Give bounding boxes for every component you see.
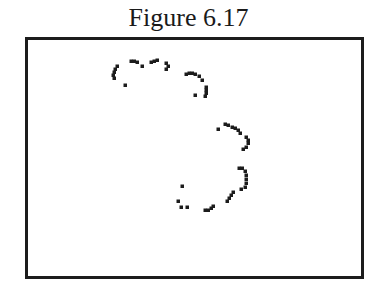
data-point	[212, 205, 216, 209]
data-point	[205, 89, 209, 93]
data-point	[226, 200, 230, 204]
data-point	[217, 128, 221, 132]
data-point	[245, 136, 249, 140]
data-point	[245, 174, 249, 178]
data-point	[116, 65, 120, 69]
data-point	[205, 86, 209, 90]
data-point	[238, 167, 242, 171]
data-point	[228, 197, 232, 201]
data-point	[180, 206, 184, 210]
data-point	[204, 209, 208, 213]
data-point	[153, 60, 157, 64]
data-point	[150, 61, 154, 65]
data-point	[130, 60, 134, 64]
data-point	[194, 73, 198, 77]
data-point	[230, 194, 234, 198]
data-point	[239, 132, 243, 136]
data-point	[205, 92, 209, 96]
data-point	[234, 127, 238, 131]
data-point	[114, 68, 118, 72]
data-point	[241, 167, 245, 171]
data-point	[156, 59, 160, 63]
data-point	[191, 72, 195, 76]
data-point	[247, 139, 251, 143]
data-point	[112, 74, 116, 78]
data-point	[204, 95, 208, 99]
data-point	[242, 148, 246, 152]
data-point	[194, 94, 198, 98]
data-point	[224, 123, 228, 127]
data-point	[245, 146, 249, 150]
dot-pattern-plot	[0, 0, 377, 291]
data-point	[244, 170, 248, 174]
data-point	[227, 124, 231, 128]
data-point	[165, 62, 169, 66]
data-point	[167, 65, 171, 69]
data-point	[181, 185, 185, 189]
data-point	[136, 61, 140, 65]
data-point	[113, 77, 117, 81]
data-point	[186, 206, 190, 210]
data-point	[244, 186, 248, 190]
data-point	[232, 191, 236, 195]
data-point	[124, 84, 128, 88]
data-point	[185, 73, 189, 77]
data-point	[240, 188, 244, 192]
data-point	[133, 60, 137, 64]
data-point	[141, 65, 145, 69]
data-point	[165, 68, 169, 72]
data-point	[201, 79, 205, 83]
data-point	[207, 209, 211, 213]
data-point	[245, 182, 249, 186]
data-point	[245, 178, 249, 182]
data-point	[247, 142, 251, 146]
data-point	[231, 126, 235, 130]
data-point	[113, 71, 117, 75]
data-point	[177, 200, 181, 204]
data-point	[237, 129, 241, 133]
data-point	[198, 75, 202, 79]
data-point	[188, 72, 192, 76]
